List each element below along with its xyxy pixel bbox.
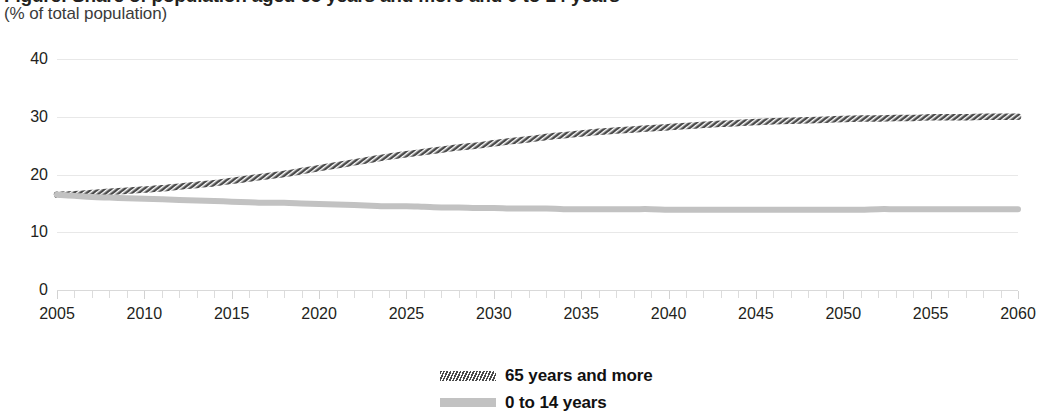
x-tick-label-2035: 2035	[563, 306, 599, 322]
legend-swatch-0-14	[440, 398, 496, 407]
y-tick-label-40: 40	[8, 51, 48, 67]
x-tick-label-2055: 2055	[913, 306, 949, 322]
chart-subtitle: (% of total population)	[4, 4, 167, 24]
series-line-0-14	[57, 195, 1018, 210]
y-tick-label-0: 0	[8, 282, 48, 298]
x-tick-label-2040: 2040	[651, 306, 687, 322]
y-tick-label-20: 20	[8, 167, 48, 183]
x-tick-2060	[1018, 291, 1019, 299]
legend-label-0-14: 0 to 14 years	[505, 393, 607, 413]
legend-item-65-plus: 65 years and more	[0, 362, 1038, 389]
y-tick-label-30: 30	[8, 109, 48, 125]
legend-swatch-65-plus	[440, 371, 496, 381]
x-tick-label-2045: 2045	[738, 306, 774, 322]
x-tick-label-2025: 2025	[389, 306, 425, 322]
legend-item-0-14: 0 to 14 years	[0, 389, 1038, 416]
x-tick-label-2050: 2050	[825, 306, 861, 322]
x-tick-label-2010: 2010	[127, 306, 163, 322]
x-tick-label-2060: 2060	[1000, 306, 1036, 322]
x-tick-label-2005: 2005	[39, 306, 75, 322]
chart-legend: 65 years and more 0 to 14 years	[0, 362, 1038, 416]
x-tick-label-2015: 2015	[214, 306, 250, 322]
chart-container: Figure: Share of population aged 65 year…	[0, 0, 1038, 419]
series-lines	[57, 40, 1018, 300]
y-tick-label-10: 10	[8, 224, 48, 240]
x-tick-label-2030: 2030	[476, 306, 512, 322]
legend-label-65-plus: 65 years and more	[505, 366, 653, 386]
x-tick-label-2020: 2020	[301, 306, 337, 322]
series-line-65-plus	[57, 117, 1018, 195]
